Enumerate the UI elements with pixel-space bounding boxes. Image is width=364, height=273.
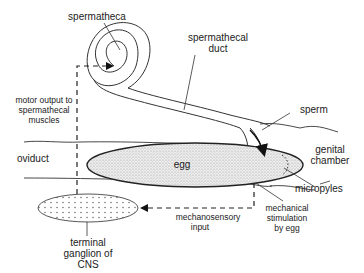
spermatheca-diagram: spermatheca spermathecal duct sperm geni…: [0, 0, 364, 273]
label-micropyles: micropyles: [295, 183, 343, 194]
motor-arrowhead: [106, 62, 114, 70]
label-motor-output-2: spermathecal: [18, 105, 69, 115]
terminal-ganglion: [38, 194, 138, 222]
label-mechanical-stim-2: stimulation: [267, 213, 308, 223]
label-mechanosensory-2: input: [191, 222, 210, 232]
label-spermathecal-duct-2: duct: [209, 43, 228, 54]
label-mechanical-stim-3: by egg: [274, 223, 300, 233]
label-spermathecal-duct-1: spermathecal: [188, 32, 248, 43]
label-oviduct: oviduct: [17, 153, 49, 164]
label-motor-output-1: motor output to: [15, 95, 72, 105]
label-spermatheca: spermatheca: [68, 11, 126, 22]
label-mechanical-stim-1: mechanical: [266, 203, 309, 213]
label-sperm: sperm: [300, 104, 328, 115]
label-genital-chamber-2: chamber: [311, 155, 351, 166]
label-ganglion-3: CNS: [77, 259, 98, 270]
mechanosensory-arrowhead: [140, 204, 148, 212]
egg: [87, 143, 303, 187]
label-mechanosensory-1: mechanosensory: [176, 212, 241, 222]
label-ganglion-2: ganglion of: [64, 248, 113, 259]
label-egg: egg: [174, 159, 191, 170]
label-ganglion-1: terminal: [70, 237, 106, 248]
label-genital-chamber-1: genital: [315, 144, 344, 155]
label-motor-output-3: muscles: [28, 115, 59, 125]
